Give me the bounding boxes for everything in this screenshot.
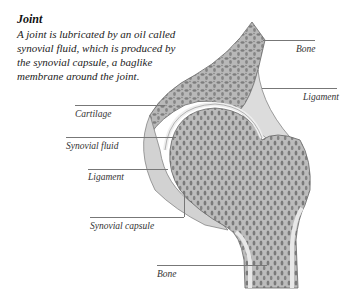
label-ligament-left: Ligament — [88, 172, 124, 182]
leader-bone-top — [263, 40, 315, 41]
leader-synovial-fluid — [66, 137, 176, 138]
leader-bone-bottom — [157, 265, 267, 266]
label-cartilage: Cartilage — [75, 109, 111, 119]
leader-ligament-left — [88, 169, 168, 170]
label-synovial-capsule: Synovial capsule — [90, 221, 154, 231]
leader-cartilage — [75, 105, 165, 106]
leader-ligament-right — [262, 88, 337, 89]
leader-synovial-capsule — [90, 217, 184, 218]
label-bone-bottom: Bone — [157, 269, 177, 279]
leader-synovial-capsule-vertical — [184, 195, 185, 217]
label-ligament-right: Ligament — [303, 92, 339, 102]
femur — [170, 108, 311, 288]
label-bone-top: Bone — [296, 44, 316, 54]
label-synovial-fluid: Synovial fluid — [66, 141, 119, 151]
